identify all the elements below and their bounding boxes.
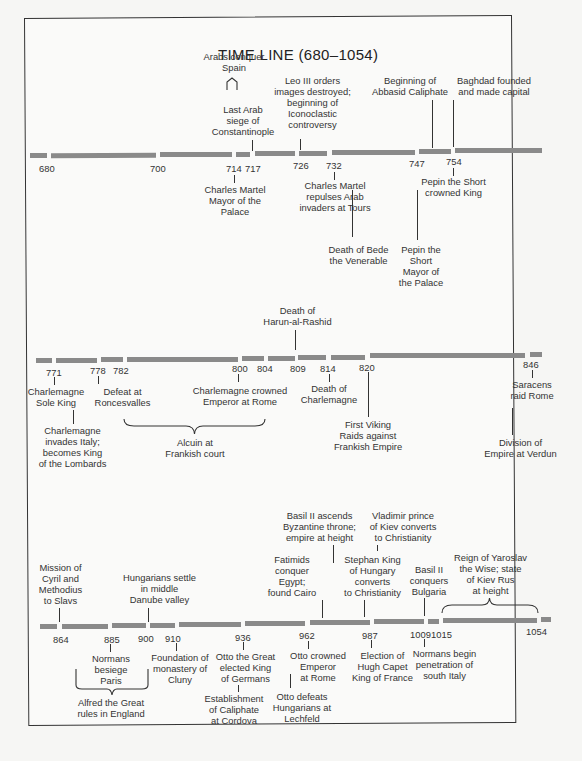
event-label: Saracens raid Rome [502, 379, 562, 401]
event-label: Normans begin penetration of south Italy [402, 648, 487, 681]
event-tick [532, 370, 533, 378]
year-label: 800 [232, 363, 248, 374]
event-tick [252, 140, 253, 151]
timeline-bar-segment [101, 357, 123, 362]
year-label: 987 [362, 630, 378, 641]
event-label: Mission of Cyril and Methodius to Slavs [33, 562, 88, 606]
event-label: Leo III orders images destroyed; beginni… [265, 75, 360, 130]
year-label: 846 [523, 359, 539, 370]
event-tick [243, 642, 244, 650]
event-tick [371, 640, 372, 648]
year-label: 864 [53, 634, 69, 645]
year-label: 809 [290, 363, 306, 374]
event-tick [424, 639, 425, 647]
event-label: Arabs conquer Spain [194, 51, 274, 73]
timeline-bar-segment [245, 621, 305, 626]
timeline-bar-segment [331, 355, 365, 360]
timeline-bar-segment [299, 151, 327, 156]
event-tick [432, 100, 433, 148]
timeline-bar-segment [332, 150, 415, 155]
event-label: Charlemagne invades Italy; becomes King … [30, 425, 115, 469]
timeline-bar-segment [56, 358, 97, 363]
timeline-bar-segment [160, 152, 232, 157]
brace-connector-icon [440, 597, 540, 615]
timeline-bar-segment [310, 620, 370, 625]
year-label: 885 [104, 634, 120, 645]
year-label: 814 [320, 363, 336, 374]
event-tick [238, 374, 239, 382]
year-label: 782 [113, 365, 129, 376]
event-label: Charlemagne crowned Emperor at Rome [180, 385, 300, 407]
event-label: Charles Martel Mayor of the Palace [195, 184, 275, 217]
event-label: Otto the Great elected King of Germans [203, 651, 288, 684]
event-tick [512, 408, 513, 435]
timeline-bar-segment [255, 151, 295, 156]
year-label: 747 [409, 158, 425, 169]
timeline-bar-segment [455, 148, 542, 153]
timeline-bar-segment [370, 353, 525, 358]
year-label: 714 [226, 163, 242, 174]
event-label: Reign of Yaroslav the Wise; state of Kie… [443, 552, 538, 596]
timeline-bar-segment [541, 617, 551, 622]
year-label: 910 [165, 633, 181, 644]
timeline-bar-segment [51, 153, 156, 159]
event-label: Death of Harun-al-Rashid [255, 305, 340, 327]
timeline-bar-segment [127, 357, 238, 362]
year-label: 1009 [410, 629, 431, 640]
year-label: 820 [359, 362, 375, 373]
event-label: Division of Empire at Verdun [473, 437, 568, 459]
event-tick [73, 410, 74, 424]
timeline-bar-segment [236, 152, 250, 157]
year-label: 726 [293, 160, 309, 171]
arch-connector-icon [225, 76, 239, 90]
event-tick [176, 643, 177, 651]
event-label: Death of Charlemagne [294, 383, 364, 405]
event-tick [238, 685, 239, 692]
event-label: Vladimir prince of Kiev converts to Chri… [358, 510, 448, 543]
timeline-bar-segment [443, 618, 537, 623]
event-label: Charlemagne Sole King [21, 386, 91, 408]
event-tick [295, 330, 296, 350]
year-label: 900 [138, 633, 154, 644]
event-tick [234, 175, 235, 183]
event-tick [300, 139, 301, 150]
timeline-bar-segment [419, 149, 451, 154]
timeline-bar-segment [374, 619, 424, 624]
timeline-bar-segment [428, 619, 439, 624]
year-label: 962 [299, 630, 315, 641]
timeline-bar-segment [36, 358, 52, 363]
timeline-bar-segment [112, 623, 146, 628]
timeline-bar-segment [30, 153, 47, 158]
year-label: 1015 [431, 629, 452, 640]
timeline-bar-segment [242, 356, 264, 361]
timeline-bar-segment [298, 355, 326, 360]
event-label: Defeat at Roncesvalles [90, 386, 155, 408]
event-tick [322, 600, 323, 618]
year-label: 754 [446, 156, 462, 167]
event-tick [364, 600, 365, 617]
timeline-bar-segment [268, 356, 295, 361]
brace-connector-icon [122, 417, 267, 437]
event-label: Hungarians settle in middle Danube valle… [112, 572, 207, 605]
event-tick [453, 168, 454, 176]
timeline-bar-segment [150, 623, 175, 628]
event-tick [290, 674, 291, 688]
event-tick [329, 374, 330, 382]
event-label: Alfred the Great rules in England [66, 697, 156, 719]
event-tick [54, 377, 55, 385]
event-label: Otto defeats Hungarians at Lechfeld [262, 691, 342, 724]
timeline-bar-segment [62, 624, 108, 629]
event-label: First Viking Raids against Frankish Empi… [328, 419, 408, 452]
event-label: Fatimids conquer Egypt; found Cairo [262, 554, 322, 598]
event-tick [110, 644, 111, 652]
timeline-bar-segment [40, 624, 57, 629]
event-label: Alcuin at Frankish court [155, 437, 235, 459]
year-label: 778 [90, 365, 106, 376]
event-tick [59, 608, 60, 622]
event-tick [424, 598, 425, 616]
event-label: Death of Bede the Venerable [316, 244, 401, 266]
event-label: Charles Martel repulses Arab invaders at… [290, 180, 380, 213]
brace-connector-icon [74, 667, 150, 697]
year-label: 732 [326, 160, 342, 171]
timeline-bar-segment [179, 622, 241, 627]
